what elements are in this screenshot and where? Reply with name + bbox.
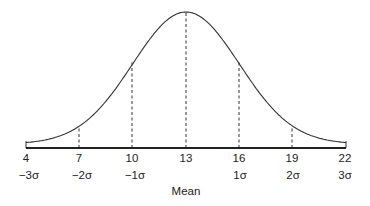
sigma-label: 3σ xyxy=(338,169,352,181)
tick-label: 13 xyxy=(180,152,193,164)
sigma-label: −3σ xyxy=(19,169,39,181)
tick-label: 16 xyxy=(233,152,246,164)
tick-label: 19 xyxy=(286,152,299,164)
sigma-label: 1σ xyxy=(233,169,247,181)
tick-label: 22 xyxy=(339,152,352,164)
tick-label: 10 xyxy=(126,152,139,164)
sigma-label: −1σ xyxy=(125,169,145,181)
sigma-label: −2σ xyxy=(72,169,92,181)
tick-label: 7 xyxy=(76,152,82,164)
sigma-dashed-lines xyxy=(79,12,292,148)
sigma-label: 2σ xyxy=(286,169,300,181)
mean-label: Mean xyxy=(172,185,201,197)
tick-label: 4 xyxy=(23,152,29,164)
bell-curve-plot xyxy=(0,0,370,206)
normal-distribution-diagram: 4 7 10 13 16 19 22 −3σ −2σ −1σ 1σ 2σ 3σ … xyxy=(0,0,370,206)
